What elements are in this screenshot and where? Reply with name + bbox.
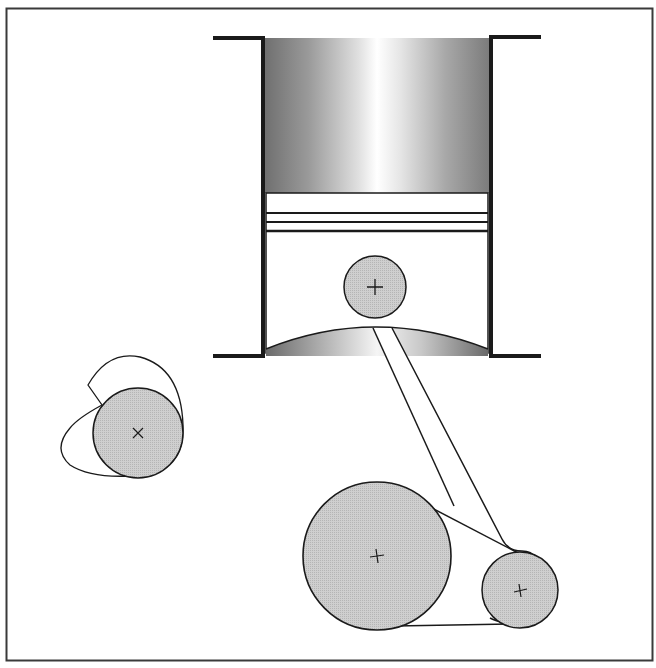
cylinder-wall-left [213,38,263,356]
cylinder-bore [263,38,491,193]
engine-mechanism-diagram [0,0,656,668]
cylinder-wall-right [491,37,541,356]
wrist-pin [344,256,406,318]
crank-wheel [303,482,451,630]
crank-pin [482,552,558,628]
cam [61,356,183,478]
